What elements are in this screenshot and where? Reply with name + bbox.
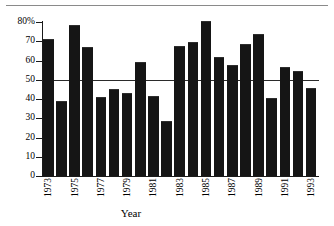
bar-1981: [148, 96, 159, 176]
y-axis-label-20: 20: [0, 133, 35, 143]
x-axis-title: Year: [0, 207, 334, 219]
y-axis-label-10: 10: [0, 152, 35, 162]
bar-1975: [69, 25, 80, 176]
x-axis-label-1985: 1985: [201, 178, 211, 197]
bar-1988: [240, 44, 251, 176]
x-axis-label-1983: 1983: [175, 178, 185, 197]
x-axis-line: [42, 176, 319, 177]
bar-1979: [122, 93, 133, 176]
x-axis-label-1987: 1987: [227, 178, 237, 197]
bar-1976: [82, 47, 93, 176]
bar-1984: [188, 42, 199, 176]
x-axis-title-text: Year: [121, 207, 141, 219]
bar-1987: [227, 65, 238, 176]
x-axis-label-1977: 1977: [96, 178, 106, 197]
y-axis-label-70: 70: [0, 36, 35, 46]
bar-1973: [43, 39, 54, 176]
x-axis-label-1989: 1989: [254, 178, 264, 197]
y-axis-label-60: 60: [0, 56, 35, 66]
bar-1992: [293, 71, 304, 176]
y-axis-label-30: 30: [0, 113, 35, 123]
y-axis-label-0: 0: [0, 171, 35, 181]
bar-1980: [135, 62, 146, 176]
bar-1991: [280, 67, 291, 176]
bar-1990: [266, 98, 277, 176]
x-axis-label-1981: 1981: [148, 178, 158, 197]
x-axis-label-1991: 1991: [280, 178, 290, 197]
bar-1982: [161, 121, 172, 176]
bar-1974: [56, 101, 67, 176]
bar-1993: [306, 88, 317, 176]
x-axis-label-1979: 1979: [122, 178, 132, 197]
bar-chart-figure: 01020304050607080% 197319751977197919811…: [0, 0, 334, 226]
x-axis-label-1973: 1973: [43, 178, 53, 197]
bar-1989: [253, 34, 264, 176]
bar-1977: [96, 97, 107, 176]
x-axis-label-1993: 1993: [306, 178, 316, 197]
x-axis-label-1975: 1975: [70, 178, 80, 197]
y-axis-label-80: 80%: [0, 17, 35, 27]
bar-series: [43, 22, 319, 176]
bar-1978: [109, 89, 120, 176]
bar-1985: [201, 21, 212, 176]
y-axis-tick-labels: 01020304050607080%: [0, 0, 35, 226]
y-axis-label-40: 40: [0, 94, 35, 104]
page-top-rule: [6, 5, 328, 6]
bar-1983: [174, 46, 185, 176]
y-axis-label-50: 50: [0, 75, 35, 85]
bar-1986: [214, 57, 225, 176]
